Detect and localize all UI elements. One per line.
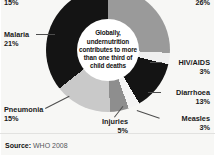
slice-name-injuries: Injuries [102, 117, 128, 126]
slice-name-diarrhoea: Diarrhoea [176, 88, 210, 97]
slice-pct-other-top-right: 26% [195, 0, 210, 7]
slice-label-diarrhoea: Diarrhoea 13% [176, 88, 210, 106]
slice-pct-other-top-left: 15% [4, 0, 19, 7]
donut-chart: Globally, undernutrition contributes to … [46, 0, 170, 112]
slice-name-measles: Measles [182, 114, 210, 123]
donut-center-hole: Globally, undernutrition contributes to … [77, 19, 139, 81]
slice-label-measles: Measles 3% [182, 114, 210, 132]
slice-label-hivaids: HIV/AIDS 3% [178, 58, 210, 76]
footer-divider [0, 133, 215, 134]
slice-label-malaria: Malaria 21% [4, 30, 29, 48]
frame-left-edge [0, 0, 1, 155]
slice-name-pneumonia: Pneumonia [4, 105, 43, 114]
leader-line-hivaids [150, 62, 162, 63]
slice-name-hivaids: HIV/AIDS [178, 58, 210, 67]
frame-right-edge [214, 0, 215, 155]
slice-pct-pneumonia: 15% [4, 114, 43, 123]
slice-pct-malaria: 21% [4, 39, 29, 48]
slice-pct-measles: 3% [182, 123, 210, 132]
slice-pct-diarrhoea: 13% [176, 97, 210, 106]
slice-label-other-top-right: 26% [195, 0, 210, 7]
leader-line-malaria [36, 34, 55, 35]
center-callout-text: Globally, undernutrition contributes to … [78, 29, 138, 70]
leader-line-diarrhoea [148, 92, 161, 93]
source-label: Source: [5, 142, 31, 149]
source-note: Source: WHO 2008 [5, 142, 68, 149]
source-value: WHO 2008 [33, 142, 68, 149]
slice-label-other-top-left: 15% [4, 0, 19, 7]
slice-pct-hivaids: 3% [178, 67, 210, 76]
chart-figure: Globally, undernutrition contributes to … [0, 0, 215, 155]
slice-name-malaria: Malaria [4, 30, 29, 39]
slice-label-pneumonia: Pneumonia 15% [4, 105, 43, 123]
